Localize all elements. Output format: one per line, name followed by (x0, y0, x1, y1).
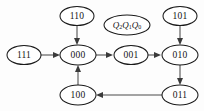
node-011-label: 011 (173, 90, 188, 100)
edge-010-to-011 (177, 65, 183, 85)
edge-011-to-100 (96, 92, 162, 98)
diagram-svg: 110 Q2Q1Q0 101 111 000 001 (0, 0, 204, 111)
state-diagram-canvas: 110 Q2Q1Q0 101 111 000 001 (0, 0, 204, 111)
node-101[interactable]: 101 (163, 7, 197, 26)
edge-001-to-010 (148, 52, 161, 58)
node-111[interactable]: 111 (7, 46, 41, 65)
node-000-label: 000 (71, 50, 86, 60)
node-110-label: 110 (70, 11, 85, 21)
node-010[interactable]: 010 (162, 45, 198, 65)
q-legend-label: Q2Q1Q0 (113, 20, 142, 31)
node-101-label: 101 (173, 11, 188, 21)
edge-110-to-000 (74, 26, 80, 45)
edge-101-to-010 (177, 26, 183, 45)
node-110[interactable]: 110 (60, 7, 94, 26)
node-011[interactable]: 011 (162, 85, 198, 105)
node-000[interactable]: 000 (60, 45, 96, 65)
node-100[interactable]: 100 (60, 85, 96, 105)
edge-000-to-001 (96, 52, 113, 58)
node-111-label: 111 (17, 50, 31, 60)
node-001[interactable]: 001 (114, 46, 148, 65)
edge-111-to-000 (41, 52, 60, 58)
node-q-legend: Q2Q1Q0 (104, 15, 150, 35)
node-100-label: 100 (71, 90, 86, 100)
node-001-label: 001 (124, 50, 139, 60)
edge-layer (41, 26, 183, 98)
edge-100-to-000 (75, 65, 81, 85)
node-010-label: 010 (173, 50, 188, 60)
node-layer: 110 Q2Q1Q0 101 111 000 001 (7, 7, 198, 106)
